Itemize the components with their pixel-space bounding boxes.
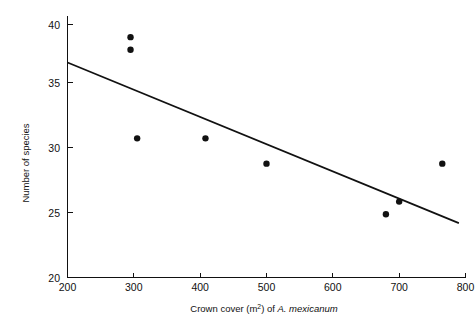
chart-background <box>0 0 476 322</box>
y-tick-label-25: 25 <box>48 207 60 219</box>
data-point <box>263 160 269 166</box>
scatter-plot-figure: 200 300 400 500 600 700 800 20 25 30 35 … <box>0 0 476 322</box>
data-point <box>127 47 133 53</box>
x-axis-title-middle: ) of <box>261 303 277 314</box>
x-tick-label-800: 800 <box>457 281 475 293</box>
y-tick-label-35: 35 <box>48 77 60 89</box>
y-tick-label-30: 30 <box>48 142 60 154</box>
data-point <box>396 198 402 204</box>
data-point <box>127 34 133 40</box>
x-tick-label-600: 600 <box>324 281 342 293</box>
data-point <box>134 135 140 141</box>
x-tick-label-200: 200 <box>59 281 77 293</box>
x-axis-title-prefix: Crown cover (m <box>190 303 257 314</box>
x-tick-label-700: 700 <box>390 281 408 293</box>
y-axis-title: Number of species <box>20 123 31 202</box>
x-axis-title-species: A. mexicanum <box>277 303 338 314</box>
x-tick-label-300: 300 <box>125 281 143 293</box>
y-tick-label-20: 20 <box>48 272 60 284</box>
x-tick-label-400: 400 <box>191 281 209 293</box>
x-axis-title: Crown cover (m2) of A. mexicanum <box>190 303 337 315</box>
data-point <box>439 160 445 166</box>
chart-canvas: 200 300 400 500 600 700 800 20 25 30 35 … <box>0 0 476 322</box>
y-tick-label-40: 40 <box>48 19 60 31</box>
x-tick-label-500: 500 <box>258 281 276 293</box>
data-point <box>383 211 389 217</box>
data-point <box>202 135 208 141</box>
